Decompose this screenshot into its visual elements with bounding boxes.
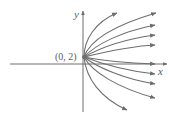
initial-point — [82, 55, 86, 59]
point-label: (0, 2) — [55, 51, 77, 63]
y-axis-label: y — [73, 8, 79, 20]
x-axis-label: x — [157, 65, 163, 77]
diagram-canvas: (0, 2) y x — [0, 0, 184, 123]
curve-group — [84, 13, 156, 110]
curve-3 — [84, 25, 155, 57]
curve-family-plot: (0, 2) y x — [0, 0, 184, 123]
curve-7 — [84, 57, 155, 74]
